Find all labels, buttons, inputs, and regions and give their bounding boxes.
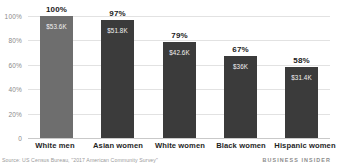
bar-white-women[interactable] bbox=[163, 42, 196, 138]
y-tick-label-60: 60% bbox=[8, 61, 22, 68]
gridline-100 bbox=[28, 16, 330, 17]
y-tick-label-100: 100% bbox=[5, 13, 22, 20]
bar-percent-label-black-women: 67% bbox=[224, 45, 257, 54]
bar-percent-label-hispanic-women: 58% bbox=[285, 56, 318, 65]
bar-percent-label-white-women: 79% bbox=[163, 31, 196, 40]
bar-asian-women[interactable] bbox=[101, 20, 134, 138]
y-tick-label-20: 20% bbox=[8, 110, 22, 117]
y-tick-label-80: 80% bbox=[8, 37, 22, 44]
y-axis: 100% 80% 60% 40% 20% 0 bbox=[0, 8, 26, 138]
bar-value-label-white-women: $42.6K bbox=[163, 49, 196, 56]
bar-percent-label-asian-women: 97% bbox=[101, 9, 134, 18]
business-insider-logo: BUSINESS INSIDER bbox=[262, 157, 331, 163]
bar-value-label-hispanic-women: $31.4K bbox=[285, 74, 318, 81]
bar-percent-label-white-men: 100% bbox=[40, 5, 73, 14]
x-axis: White men Asian women White women Black … bbox=[28, 141, 330, 153]
y-tick-label-40: 40% bbox=[8, 86, 22, 93]
axis-baseline bbox=[28, 138, 330, 139]
bar-value-label-white-men: $53.6K bbox=[40, 23, 73, 30]
plot-area: 100% $53.6K 97% $51.8K 79% $42.6K 67% $3… bbox=[28, 8, 330, 138]
bar-value-label-asian-women: $51.8K bbox=[101, 27, 134, 34]
source-note: Source: US Census Bureau, "2017 American… bbox=[2, 157, 158, 163]
bar-white-men[interactable] bbox=[40, 16, 73, 138]
bar-value-label-black-women: $36K bbox=[224, 63, 257, 70]
x-tick-label-hispanic-women: Hispanic women bbox=[261, 141, 340, 150]
